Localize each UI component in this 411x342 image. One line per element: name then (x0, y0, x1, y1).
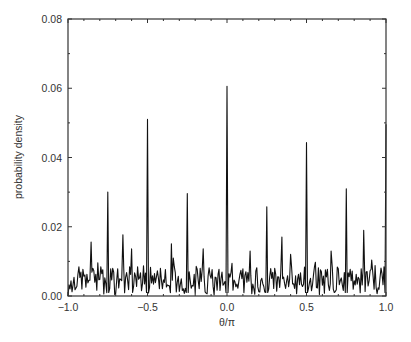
y-tick-label: 0.04 (42, 152, 63, 164)
probability-density-chart: 0.000.020.040.060.08 −1.0−0.50.00.51.0 θ… (0, 0, 411, 342)
density-curve (68, 86, 386, 296)
x-tick-label: 0.5 (299, 301, 314, 313)
y-tick-label: 0.06 (42, 82, 63, 94)
y-axis-ticks: 0.000.020.040.060.08 (42, 13, 386, 302)
y-tick-label: 0.08 (42, 13, 63, 25)
x-tick-label: −0.5 (137, 301, 158, 313)
x-tick-label: 0.0 (220, 301, 235, 313)
y-tick-label: 0.02 (42, 221, 63, 233)
density-line (68, 86, 386, 296)
x-axis-label: θ/π (219, 316, 235, 328)
y-axis-label: probability density (12, 114, 24, 199)
x-tick-label: 1.0 (379, 301, 394, 313)
x-tick-label: −1.0 (58, 301, 79, 313)
